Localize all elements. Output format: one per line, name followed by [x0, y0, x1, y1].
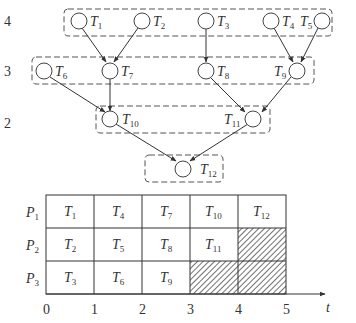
- node-t12: [175, 161, 191, 177]
- level-label-2: 2: [4, 116, 11, 131]
- node-t1: [71, 13, 87, 29]
- edge-t10-t12: [116, 124, 176, 161]
- idle-cell-p3-3: [190, 261, 238, 294]
- node-t5: [314, 13, 330, 29]
- edge-t9-t11: [262, 77, 291, 112]
- node-label-t10: T10: [122, 112, 139, 129]
- node-label-t6: T6: [55, 64, 68, 81]
- axis-tick-4: 4: [235, 302, 242, 317]
- cell-p1-1: T4: [112, 204, 125, 221]
- node-label-t1: T1: [90, 14, 102, 31]
- processor-label-p2: P2: [25, 238, 39, 255]
- diagram-canvas: 4 3 2 T1 T2 T3 T4 T5 T6 T7: [0, 0, 356, 323]
- cell-p2-3: T11: [205, 237, 221, 254]
- cell-p3-0: T3: [64, 270, 77, 287]
- node-label-t11: T11: [224, 112, 240, 129]
- processor-label-p3: P3: [25, 271, 40, 288]
- level-label-4: 4: [4, 14, 11, 29]
- node-label-t8: T8: [217, 64, 230, 81]
- axis-tick-1: 1: [91, 302, 98, 317]
- node-t2: [134, 13, 150, 29]
- node-t3: [198, 13, 214, 29]
- axis-tick-0: 0: [43, 302, 50, 317]
- axis-tick-5: 5: [283, 302, 290, 317]
- cell-p2-0: T2: [64, 237, 76, 254]
- dag-edges: [50, 28, 318, 161]
- node-label-t12: T12: [200, 162, 217, 179]
- level-label-3: 3: [4, 64, 11, 79]
- edge-t6-t10: [50, 77, 105, 112]
- idle-cell-p2-4: [238, 228, 286, 261]
- processor-label-p1: P1: [25, 205, 39, 222]
- cell-p3-1: T6: [112, 270, 125, 287]
- cell-p1-0: T1: [64, 204, 76, 221]
- node-label-t9: T9: [274, 64, 287, 81]
- node-t9: [289, 63, 305, 79]
- node-t8: [198, 63, 214, 79]
- node-label-t3: T3: [217, 14, 230, 31]
- edge-t11-t12: [190, 124, 248, 161]
- node-t6: [36, 63, 52, 79]
- node-label-t2: T2: [153, 14, 165, 31]
- idle-cell-p3-4: [238, 261, 286, 294]
- node-label-t4: T4: [282, 14, 295, 31]
- axis-label-t: t: [326, 300, 331, 315]
- node-label-t5: T5: [300, 14, 313, 31]
- cell-p2-2: T8: [160, 237, 173, 254]
- cell-p3-2: T9: [160, 270, 173, 287]
- level-3-group-box: [32, 57, 314, 84]
- cell-p1-4: T12: [253, 204, 270, 221]
- node-t10: [102, 111, 118, 127]
- node-t7: [102, 63, 118, 79]
- cell-p1-3: T10: [205, 204, 222, 221]
- node-t11: [245, 111, 261, 127]
- axis-tick-2: 2: [139, 302, 146, 317]
- axis-tick-3: 3: [187, 302, 194, 317]
- gantt-chart: P1 P2 P3 T1 T4 T7 T10 T12 T2 T5 T8 T11 T…: [25, 195, 331, 317]
- node-t4: [263, 13, 279, 29]
- cell-p1-2: T7: [160, 204, 173, 221]
- cell-p2-1: T5: [112, 237, 125, 254]
- node-label-t7: T7: [121, 64, 134, 81]
- edge-t8-t11: [210, 77, 245, 112]
